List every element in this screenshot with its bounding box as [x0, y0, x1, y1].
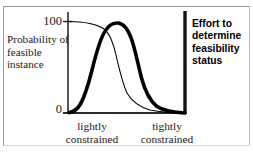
y-axis-tick-label-0: 0 — [38, 103, 62, 116]
effort-annotation-label: Effort to determine feasibility status — [192, 18, 250, 68]
x-axis-label-lightly-constrained: lightly constrained — [56, 120, 128, 145]
curve-effort-determine-feasibility — [69, 23, 185, 113]
y-axis-tick-label-100: 100 — [26, 15, 62, 28]
figure-container: 100 0 Probability of feasible instance E… — [0, 0, 253, 158]
y-axis-label: Probability of feasible instance — [7, 33, 69, 71]
x-axis-label-tightly-constrained: tightly constrained — [131, 120, 203, 145]
curve-probability-feasible-instance — [68, 22, 185, 114]
